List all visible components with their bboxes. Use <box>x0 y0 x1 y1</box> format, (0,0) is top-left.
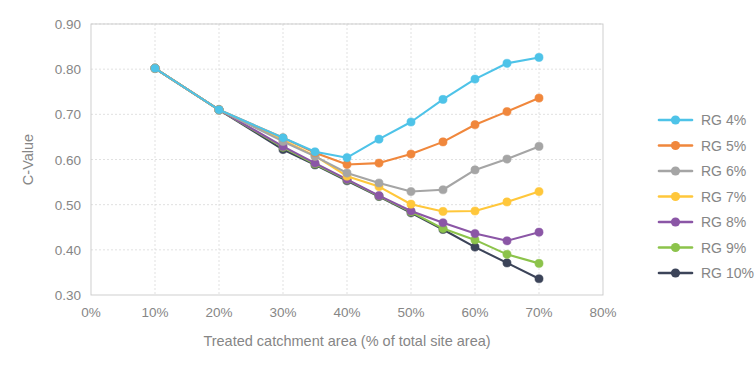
legend-swatch-marker <box>671 217 680 226</box>
legend-swatch-marker <box>671 141 680 150</box>
legend-swatch-marker <box>671 166 680 175</box>
legend-label: RG 10% <box>701 265 754 281</box>
legend-item-rg-5[interactable]: RG 5% <box>659 138 746 154</box>
data-point-marker <box>471 121 479 129</box>
x-tick-label: 0% <box>81 305 101 320</box>
chart-legend: RG 4%RG 5%RG 6%RG 7%RG 8%RG 9%RG 10% <box>659 112 754 281</box>
legend-item-rg-9[interactable]: RG 9% <box>659 240 746 256</box>
data-point-marker <box>471 207 479 215</box>
y-tick-label: 0.70 <box>55 107 81 122</box>
y-tick-label: 0.60 <box>55 153 81 168</box>
y-tick-label: 0.50 <box>55 198 81 213</box>
data-point-marker <box>535 94 543 102</box>
y-axis-title: C-Value <box>20 134 36 185</box>
legend-label: RG 9% <box>701 240 746 256</box>
legend-item-rg-6[interactable]: RG 6% <box>659 163 746 179</box>
legend-swatch-marker <box>671 268 680 277</box>
data-point-marker <box>535 142 543 150</box>
data-point-marker <box>311 148 319 156</box>
data-point-marker <box>439 186 447 194</box>
x-axis-title: Treated catchment area (% of total site … <box>203 333 490 349</box>
data-point-marker <box>535 53 543 61</box>
legend-label: RG 4% <box>701 112 746 128</box>
data-point-marker <box>471 229 479 237</box>
c-value-line-chart: 0.300.400.500.600.700.800.90 0%10%20%30%… <box>0 0 755 370</box>
legend-item-rg-8[interactable]: RG 8% <box>659 214 746 230</box>
data-point-marker <box>279 134 287 142</box>
data-point-marker <box>503 237 511 245</box>
data-point-marker <box>503 259 511 267</box>
data-point-marker <box>151 64 159 72</box>
data-point-marker <box>503 250 511 258</box>
x-tick-label: 60% <box>461 305 488 320</box>
legend-swatch-marker <box>671 115 680 124</box>
data-point-marker <box>471 75 479 83</box>
data-point-marker <box>439 138 447 146</box>
legend-label: RG 8% <box>701 214 746 230</box>
data-point-marker <box>407 118 415 126</box>
legend-label: RG 7% <box>701 189 746 205</box>
data-point-marker <box>535 275 543 283</box>
data-point-marker <box>503 59 511 67</box>
data-point-marker <box>503 155 511 163</box>
y-tick-label: 0.40 <box>55 243 81 258</box>
data-point-marker <box>375 192 383 200</box>
data-point-marker <box>375 179 383 187</box>
x-tick-label: 50% <box>397 305 424 320</box>
legend-swatch-marker <box>671 192 680 201</box>
data-point-marker <box>535 259 543 267</box>
data-point-marker <box>535 228 543 236</box>
legend-item-rg-10[interactable]: RG 10% <box>659 265 754 281</box>
data-point-marker <box>439 95 447 103</box>
data-point-marker <box>503 108 511 116</box>
x-tick-label: 80% <box>589 305 616 320</box>
data-point-marker <box>535 187 543 195</box>
data-point-marker <box>375 135 383 143</box>
legend-label: RG 6% <box>701 163 746 179</box>
data-point-marker <box>407 150 415 158</box>
legend-label: RG 5% <box>701 138 746 154</box>
x-tick-label: 10% <box>141 305 168 320</box>
legend-item-rg-7[interactable]: RG 7% <box>659 189 746 205</box>
y-axis-tick-labels: 0.300.400.500.600.700.800.90 <box>55 17 81 303</box>
data-point-marker <box>375 159 383 167</box>
y-tick-label: 0.30 <box>55 288 81 303</box>
data-point-marker <box>343 154 351 162</box>
data-point-marker <box>407 200 415 208</box>
data-point-marker <box>439 207 447 215</box>
legend-item-rg-4[interactable]: RG 4% <box>659 112 746 128</box>
data-point-marker <box>407 187 415 195</box>
data-point-marker <box>503 198 511 206</box>
x-tick-label: 70% <box>525 305 552 320</box>
legend-swatch-marker <box>671 243 680 252</box>
y-tick-label: 0.80 <box>55 62 81 77</box>
x-tick-label: 20% <box>205 305 232 320</box>
x-tick-label: 30% <box>269 305 296 320</box>
data-point-marker <box>471 166 479 174</box>
data-point-marker <box>215 106 223 114</box>
y-tick-label: 0.90 <box>55 17 81 32</box>
data-point-marker <box>439 219 447 227</box>
x-tick-label: 40% <box>333 305 360 320</box>
data-point-marker <box>343 169 351 177</box>
x-axis-tick-labels: 0%10%20%30%40%50%60%70%80% <box>81 305 616 320</box>
chart-canvas: 0.300.400.500.600.700.800.90 0%10%20%30%… <box>0 0 755 370</box>
